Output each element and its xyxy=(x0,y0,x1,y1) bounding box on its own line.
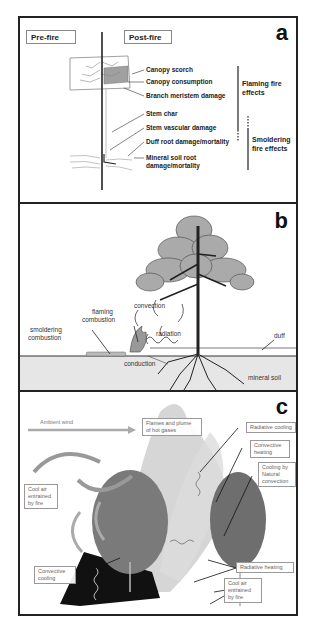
label-flaming-effects-1: Flaming fire xyxy=(242,80,282,88)
label-canopy-consumption: Canopy consumption xyxy=(146,78,212,86)
cool-air-right-line-3: by fire xyxy=(228,594,258,601)
convective-heating-line-1: Convective xyxy=(254,442,286,449)
cooling-natural-line-3: convection xyxy=(262,478,292,485)
box-convective-cooling: Convective cooling xyxy=(34,566,76,584)
label-radiation: radiation xyxy=(156,330,181,338)
box-cool-air-right: Cool air entrained by fire xyxy=(224,578,262,603)
label-mineral-soil-root: Mineral soil root xyxy=(146,154,196,162)
box-cool-air-left: Cool air entrained by fire xyxy=(24,484,58,509)
cool-air-left-line-1: Cool air xyxy=(28,486,54,493)
cool-air-left-line-2: entrained xyxy=(28,493,54,500)
label-mineral-soil: mineral soil xyxy=(248,374,281,382)
label-smoldering-effects-1: Smoldering xyxy=(252,136,291,144)
panel-a-fire-effects-tree: a Pre-fire Post-fire Canopy scorch Canop… xyxy=(18,16,298,204)
label-duff-root-damage: Duff root damage/mortality xyxy=(146,138,229,146)
label-stem-vascular-damage: Stem vascular damage xyxy=(146,124,216,132)
box-cooling-natural-convection: Cooling by Natural convection xyxy=(258,462,296,487)
panel-b-heat-transfer: b convect xyxy=(18,202,298,392)
cool-air-right-line-1: Cool air xyxy=(228,580,258,587)
box-radiative-heating: Radiative heating xyxy=(236,562,294,573)
box-radiative-cooling: Radiative cooling xyxy=(246,422,296,433)
cooling-natural-line-1: Cooling by xyxy=(262,464,292,471)
convective-heating-line-2: heating xyxy=(254,449,286,456)
label-mineral-soil-root-2: damage/mortality xyxy=(146,162,200,170)
convective-cooling-line-2: cooling xyxy=(38,575,72,582)
label-duff: duff xyxy=(274,332,285,340)
box-convective-heating: Convective heating xyxy=(250,440,290,458)
label-smoldering-1: smoldering xyxy=(30,326,62,334)
label-branch-meristem-damage: Branch meristem damage xyxy=(146,92,225,100)
cool-air-left-line-3: by fire xyxy=(28,500,54,507)
label-conduction: conduction xyxy=(124,360,155,368)
flames-plume-line-1: Flames and plume xyxy=(146,420,198,427)
label-flaming-2: combustion xyxy=(82,316,115,324)
cooling-natural-line-2: Natural xyxy=(262,471,292,478)
panel-c-fire-atmosphere: c Ambient wind Flames xyxy=(18,390,298,616)
label-flaming-1: flaming xyxy=(92,308,113,316)
label-smoldering-2: combustion xyxy=(28,334,61,342)
label-convection: convection xyxy=(134,302,165,310)
cool-air-right-line-2: entrained xyxy=(228,587,258,594)
label-smoldering-effects-2: fire effects xyxy=(252,145,287,153)
label-stem-char: Stem char xyxy=(146,110,177,118)
label-flaming-effects-2: effects xyxy=(242,89,265,97)
flames-plume-line-2: of hot gases xyxy=(146,427,198,434)
tree-scene-b xyxy=(20,204,298,392)
label-canopy-scorch: Canopy scorch xyxy=(146,66,193,74)
box-flames-plume: Flames and plume of hot gases xyxy=(142,418,202,436)
label-ambient-wind: Ambient wind xyxy=(40,418,73,426)
convective-cooling-line-1: Convective xyxy=(38,568,72,575)
